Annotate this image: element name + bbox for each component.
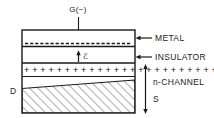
gate-terminal-group: G(−) (69, 5, 86, 30)
insulator-layer: ℰ (22, 50, 135, 63)
mosfet-diagram-figure: G(−) ℰ + + + + + + + + + + + + + + (0, 0, 214, 118)
n-channel-region: + + + + + + + + + + + + + + + + + + + + … (22, 65, 214, 113)
substrate-hatched-region (22, 80, 135, 113)
insulator-callout: INSULATOR (136, 52, 207, 62)
metal-layer (22, 44, 135, 47)
drain-terminal-label: D (10, 86, 17, 96)
gate-terminal-label: G(−) (69, 5, 86, 14)
metal-layer-label: METAL (155, 33, 184, 43)
substrate-hatch-fill (22, 80, 135, 113)
electric-field-arrow (76, 50, 80, 62)
induced-positive-charge-row: + + + + + + + + + + + + + + + + + + + + … (24, 65, 214, 75)
metal-callout: METAL (136, 33, 185, 43)
insulator-callout-arrowhead (136, 55, 141, 59)
mosfet-cross-section-svg: G(−) ℰ + + + + + + + + + + + + + + (0, 0, 214, 118)
source-terminal-label: S (153, 94, 159, 104)
insulator-layer-label: INSULATOR (155, 52, 206, 62)
metal-callout-arrowhead (136, 36, 141, 40)
n-channel-layer-label: n-CHANNEL (153, 77, 204, 87)
electric-field-label: ℰ (83, 52, 88, 61)
